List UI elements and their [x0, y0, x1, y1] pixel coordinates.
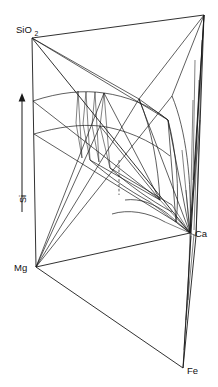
riser-upper-to-lower-3	[76, 91, 78, 123]
edge-silica-to-calcium	[32, 38, 190, 233]
si-axis-arrow-head	[19, 93, 26, 102]
phase-diagram-canvas: SiO 2 Mg Ca Fe Si	[0, 0, 218, 387]
riser-upper-to-lower-2	[83, 92, 86, 124]
sliver-line-5	[182, 150, 190, 233]
label-iron: Fe	[187, 365, 198, 376]
curve-node-c-descending	[172, 96, 190, 233]
vertical-riser-bundle	[76, 91, 110, 168]
label-si-axis: Si	[18, 195, 28, 203]
silica-apex-rays	[32, 15, 204, 120]
arc-lower-inner	[90, 160, 150, 202]
liquidus-curve-upper	[33, 92, 168, 120]
vertex-labels: SiO 2 Mg Ca Fe Si	[14, 24, 208, 376]
arc-bottom-2	[112, 212, 165, 222]
ray-magnesium-to-upper-curve	[36, 93, 104, 267]
edge-magnesium-to-iron	[36, 267, 183, 368]
label-silica: SiO	[16, 24, 32, 35]
phase-diagram-figure: SiO 2 Mg Ca Fe Si	[0, 0, 218, 387]
ray-silica-to-node-a	[32, 38, 139, 99]
edge-silica-to-rear-top	[32, 15, 204, 38]
label-calcium: Ca	[195, 228, 208, 239]
edge-silica-to-magnesium	[32, 38, 36, 267]
ray-rear-top-to-node-a	[139, 15, 204, 99]
ray-magnesium-to-node-a	[36, 99, 139, 267]
si-axis-arrow-group	[19, 93, 26, 212]
ray-magnesium-to-lower-curve	[36, 126, 100, 267]
upper-liquidus-curves	[33, 92, 176, 222]
outer-frame-edges	[32, 15, 204, 368]
label-magnesium: Mg	[14, 262, 27, 273]
curve-node-a-descending	[139, 99, 160, 200]
label-silica-subscript: 2	[35, 30, 39, 37]
ray-silica-to-node-b	[32, 38, 168, 120]
